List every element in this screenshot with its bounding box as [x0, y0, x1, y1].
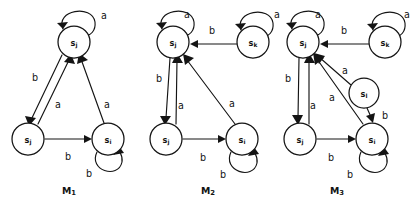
- edge-label-b: b: [200, 152, 206, 163]
- edge-label-a: a: [184, 9, 190, 20]
- state-label-sub: i: [109, 139, 111, 145]
- edge-label-a: a: [404, 9, 410, 20]
- edge-sk-sj-b: [25, 55, 62, 126]
- edge-label-a: a: [101, 10, 107, 21]
- edge-label-b: b: [382, 110, 388, 121]
- state-machine-figure: a b a b a b: [0, 0, 414, 209]
- edge-label-a: a: [104, 99, 110, 110]
- edge-sj-sk-a: [172, 53, 183, 124]
- edge-label-a: a: [329, 92, 335, 103]
- machine-caption-m3: M3: [330, 185, 344, 198]
- edge-label-b: b: [209, 25, 215, 36]
- edge-sj-si-b: [183, 135, 226, 143]
- edge-label-b: b: [156, 73, 162, 84]
- state-label-sub: j: [173, 42, 176, 49]
- machine-caption-sub: 3: [339, 189, 344, 197]
- diagram-m2: a a b b a b: [140, 0, 280, 209]
- machine-caption-base: M: [330, 185, 339, 196]
- edge-si-sk-a: [183, 54, 235, 124]
- edge-label-b: b: [347, 169, 353, 180]
- state-label-sub: j: [303, 42, 306, 49]
- machine-caption-m2: M2: [201, 185, 215, 198]
- machine-caption-sub: 2: [210, 189, 215, 197]
- edge-label-a: a: [310, 100, 316, 111]
- edge-si-sk-a: [77, 53, 104, 123]
- diagram-m1: a b a b a b: [0, 0, 140, 209]
- edge-sj-sk-a: [304, 53, 315, 124]
- edge-label-b: b: [86, 168, 92, 179]
- edge-label-a: a: [178, 100, 184, 111]
- state-node-sl[interactable]: sl: [349, 78, 379, 108]
- edge-sk-sj-b: [292, 58, 303, 125]
- edge-label-b: b: [328, 152, 334, 163]
- state-label-sub: j: [74, 42, 77, 49]
- edge-label-a: a: [342, 65, 348, 76]
- state-node-sj[interactable]: sj: [150, 123, 182, 155]
- edge-label-a: a: [55, 99, 61, 110]
- edge-sj-si-b: [45, 135, 92, 143]
- state-node-si[interactable]: si: [226, 123, 258, 155]
- state-node-si[interactable]: si: [92, 123, 124, 155]
- machine-caption-sub: 1: [71, 189, 76, 197]
- state-node-sj[interactable]: sj: [284, 123, 316, 155]
- machine-caption-base: M: [201, 185, 210, 196]
- edge-label-b: b: [32, 72, 38, 83]
- state-node-sk[interactable]: sj: [58, 26, 90, 58]
- edge-sj-si-b: [317, 135, 356, 143]
- state-label-sub: j: [28, 139, 31, 146]
- state-node-sm[interactable]: sk: [369, 26, 401, 58]
- edge-sl-si-b: [366, 108, 375, 123]
- edge-label-b: b: [285, 73, 291, 84]
- edge-sj-sk-a: [38, 54, 75, 124]
- edge-sl-sk-b: [190, 40, 237, 48]
- edge-sk-sj-b: [160, 58, 171, 125]
- state-label-sub: i: [373, 139, 375, 145]
- diagram-m3: a a b b a a: [280, 0, 414, 209]
- edge-label-b: b: [220, 169, 226, 180]
- state-node-sj[interactable]: sj: [12, 123, 44, 155]
- machine-caption-base: M: [62, 185, 71, 196]
- state-node-si[interactable]: si: [356, 123, 388, 155]
- machine-caption-m1: M1: [62, 185, 76, 198]
- state-node-sk[interactable]: sj: [157, 26, 189, 58]
- state-label-sub: l: [365, 93, 367, 99]
- edge-sm-sk-b: [320, 40, 369, 48]
- edge-label-b: b: [341, 25, 347, 36]
- state-node-sk[interactable]: sj: [287, 26, 319, 58]
- state-node-sl[interactable]: sk: [237, 26, 269, 58]
- state-label-sub: j: [166, 139, 169, 146]
- state-label-sub: j: [300, 139, 303, 146]
- edge-label-a: a: [315, 9, 321, 20]
- state-label-sub: i: [243, 139, 245, 145]
- edge-label-b: b: [65, 151, 71, 162]
- edge-label-a: a: [229, 98, 235, 109]
